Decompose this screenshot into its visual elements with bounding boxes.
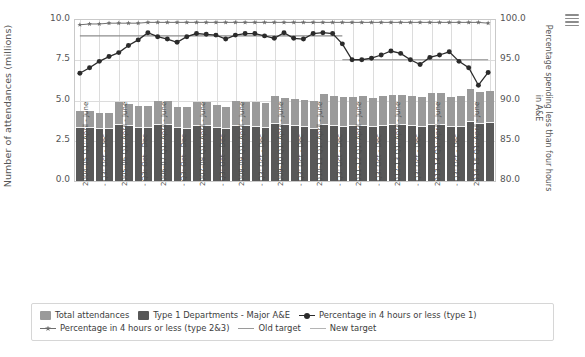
data-point-marker <box>214 20 219 25</box>
data-point-marker <box>77 71 82 76</box>
data-point-marker <box>291 20 296 25</box>
data-point-marker <box>213 33 218 38</box>
data-point-marker <box>408 20 413 25</box>
y-axis-right-tick: 85.0 <box>500 134 544 144</box>
data-point-marker <box>388 20 393 25</box>
legend-item[interactable]: Total attendances <box>40 309 129 322</box>
x-axis-tick: - Q3: Oct - Dec <box>414 134 422 186</box>
y-axis-left-tick: 0.0 <box>28 174 70 184</box>
x-axis-tick: - Q3: Oct - Dec <box>141 134 149 186</box>
x-axis-tick: 2010-11 Q1: April - June <box>316 102 324 186</box>
data-point-marker <box>466 65 471 70</box>
data-point-marker <box>398 20 403 25</box>
data-point-marker <box>418 20 423 25</box>
data-point-marker <box>126 21 131 26</box>
data-point-marker <box>184 20 189 25</box>
y-axis-left-title: Number of attendances (millions) <box>2 18 16 194</box>
x-axis-tick: 2007-08 Q1: April - June <box>199 102 207 186</box>
data-point-marker <box>145 20 150 25</box>
legend-item[interactable]: Old target <box>238 322 300 335</box>
data-point-marker <box>184 34 189 39</box>
data-point-marker <box>165 37 170 42</box>
data-point-marker <box>437 53 442 58</box>
hamburger-menu-icon[interactable] <box>565 14 579 28</box>
data-point-marker <box>155 20 160 25</box>
data-point-marker <box>379 53 384 58</box>
data-point-marker <box>369 56 374 61</box>
data-point-marker <box>350 57 355 62</box>
legend-line-icon <box>238 324 254 333</box>
data-point-marker <box>223 20 228 25</box>
x-axis-tick: 2011-12 Q1: April - June <box>355 102 363 186</box>
legend-row-1: Total attendancesType 1 Departments - Ma… <box>40 309 545 322</box>
data-point-marker <box>311 20 316 25</box>
x-axis-tick: 2009-10 Q1: April - June <box>277 102 285 186</box>
data-point-marker <box>301 37 306 42</box>
chart-legend: Total attendancesType 1 Departments - Ma… <box>31 303 554 341</box>
y-axis-right-title: Percentage spending less than four hours… <box>523 20 553 196</box>
data-point-marker <box>437 20 442 25</box>
data-point-marker <box>359 20 364 25</box>
x-axis-tick: - Q3: Oct - Dec <box>297 134 305 186</box>
data-point-marker <box>330 31 335 36</box>
data-point-marker <box>77 22 82 27</box>
legend-item[interactable]: Type 1 Departments - Major A&E <box>138 309 290 322</box>
data-point-marker <box>252 20 257 25</box>
x-axis-tick: 2008-09 Q1: April - June <box>238 102 246 186</box>
data-point-marker <box>136 21 141 26</box>
data-point-marker <box>476 20 481 25</box>
data-point-marker <box>486 21 491 26</box>
data-point-marker <box>272 20 277 25</box>
data-point-marker <box>175 40 180 45</box>
x-axis-tick: 2012-13 Q1: April - June <box>394 102 402 186</box>
data-point-marker <box>272 36 277 41</box>
legend-item[interactable]: New target <box>310 322 376 335</box>
y-axis-left-tick: 10.0 <box>28 13 70 23</box>
data-point-marker <box>233 33 238 38</box>
data-point-marker <box>155 34 160 39</box>
data-point-marker <box>252 31 257 36</box>
x-axis-tick: - Q3: Oct - Dec <box>101 134 109 186</box>
legend-label: Old target <box>258 322 300 335</box>
data-point-marker <box>476 83 481 88</box>
data-point-marker <box>262 33 267 38</box>
data-point-marker <box>320 30 325 35</box>
data-point-marker <box>194 31 199 36</box>
data-point-marker <box>145 30 150 35</box>
data-point-marker <box>97 59 102 64</box>
x-axis-tick: - Q3: Oct - Dec <box>180 134 188 186</box>
x-axis-tick: 2004-05 Q1: April - June <box>82 102 90 186</box>
data-point-marker <box>456 59 461 64</box>
data-point-marker <box>194 20 199 25</box>
data-point-marker <box>369 20 374 25</box>
data-point-marker <box>359 57 364 62</box>
data-point-marker <box>107 21 112 26</box>
data-point-marker <box>126 43 131 48</box>
data-point-marker <box>175 20 180 25</box>
y-axis-right-tick: 80.0 <box>500 174 544 184</box>
data-point-marker <box>107 54 112 59</box>
plot-area <box>74 19 496 182</box>
y-axis-left-tick: 5.0 <box>28 94 70 104</box>
x-axis-tick: - Q3: Oct - Dec <box>258 134 266 186</box>
legend-label: New target <box>330 322 376 335</box>
legend-swatch-icon <box>138 311 149 320</box>
legend-label: Percentage in 4 hours or less (type 1) <box>319 309 477 322</box>
data-point-marker <box>350 20 355 25</box>
y-axis-right-tick: 95.0 <box>500 53 544 63</box>
y-axis-right-tick: 90.0 <box>500 94 544 104</box>
data-point-marker <box>388 49 393 54</box>
y-axis-right-tick: 100.0 <box>500 13 544 23</box>
data-point-marker <box>204 20 209 25</box>
data-point-marker <box>243 31 248 36</box>
x-axis-tick: 2013-14 Q1: April - June <box>434 102 442 186</box>
legend-item[interactable]: Percentage in 4 hours or less (type 1) <box>299 309 477 322</box>
x-axis-tick: 2006-07 Q1: April - June <box>160 102 168 186</box>
data-point-marker <box>447 20 452 25</box>
legend-item[interactable]: Percentage in 4 hours or less (type 2&3) <box>40 322 229 335</box>
data-point-marker <box>97 21 102 26</box>
data-point-marker <box>447 49 452 54</box>
x-axis-tick: 2005-06 Q1: April - June <box>121 102 129 186</box>
x-axis-tick: - Q3: Oct - Dec <box>219 134 227 186</box>
data-point-marker <box>486 70 491 75</box>
